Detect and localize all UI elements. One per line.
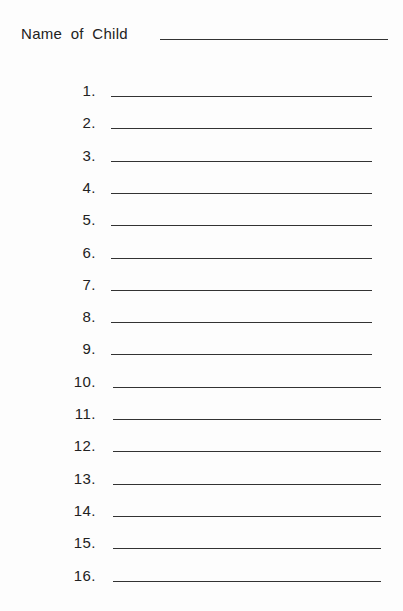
item-number: 4. bbox=[66, 179, 96, 196]
list-item: 16. bbox=[0, 565, 380, 585]
child-name-label: Name of Child bbox=[21, 25, 128, 42]
item-answer-field[interactable] bbox=[113, 451, 381, 452]
list-item: 1. bbox=[0, 80, 380, 100]
item-number: 1. bbox=[66, 82, 96, 99]
item-answer-field[interactable] bbox=[113, 387, 381, 388]
item-number: 8. bbox=[66, 308, 96, 325]
item-number: 11. bbox=[66, 405, 96, 422]
item-answer-field[interactable] bbox=[111, 96, 372, 97]
item-answer-field[interactable] bbox=[111, 290, 372, 291]
item-answer-field[interactable] bbox=[111, 225, 372, 226]
item-number: 3. bbox=[66, 147, 96, 164]
child-name-row: Name of Child bbox=[21, 22, 391, 42]
list-item: 8. bbox=[0, 306, 380, 326]
item-answer-field[interactable] bbox=[111, 354, 372, 355]
item-answer-field[interactable] bbox=[111, 258, 372, 259]
item-answer-field[interactable] bbox=[111, 161, 372, 162]
item-number: 5. bbox=[66, 211, 96, 228]
list-item: 13. bbox=[0, 468, 380, 488]
list-item: 15. bbox=[0, 532, 380, 552]
item-answer-field[interactable] bbox=[111, 193, 372, 194]
list-item: 6. bbox=[0, 242, 380, 262]
item-answer-field[interactable] bbox=[113, 419, 381, 420]
item-answer-field[interactable] bbox=[113, 548, 381, 549]
item-number: 13. bbox=[66, 470, 96, 487]
list-item: 14. bbox=[0, 500, 380, 520]
list-item: 4. bbox=[0, 177, 380, 197]
child-name-field[interactable] bbox=[160, 39, 388, 40]
item-number: 15. bbox=[66, 534, 96, 551]
item-number: 9. bbox=[66, 340, 96, 357]
item-number: 14. bbox=[66, 502, 96, 519]
item-answer-field[interactable] bbox=[111, 128, 372, 129]
list-item: 11. bbox=[0, 403, 380, 423]
item-answer-field[interactable] bbox=[113, 581, 381, 582]
item-number: 2. bbox=[66, 114, 96, 131]
list-item: 3. bbox=[0, 145, 380, 165]
list-item: 9. bbox=[0, 338, 380, 358]
list-item: 2. bbox=[0, 112, 380, 132]
item-number: 7. bbox=[66, 276, 96, 293]
list-item: 10. bbox=[0, 371, 380, 391]
list-item: 5. bbox=[0, 209, 380, 229]
list-item: 7. bbox=[0, 274, 380, 294]
item-number: 12. bbox=[66, 437, 96, 454]
item-answer-field[interactable] bbox=[111, 322, 372, 323]
list-item: 12. bbox=[0, 435, 380, 455]
item-answer-field[interactable] bbox=[113, 516, 381, 517]
item-number: 6. bbox=[66, 244, 96, 261]
item-answer-field[interactable] bbox=[113, 484, 381, 485]
item-number: 16. bbox=[66, 567, 96, 584]
item-number: 10. bbox=[66, 373, 96, 390]
